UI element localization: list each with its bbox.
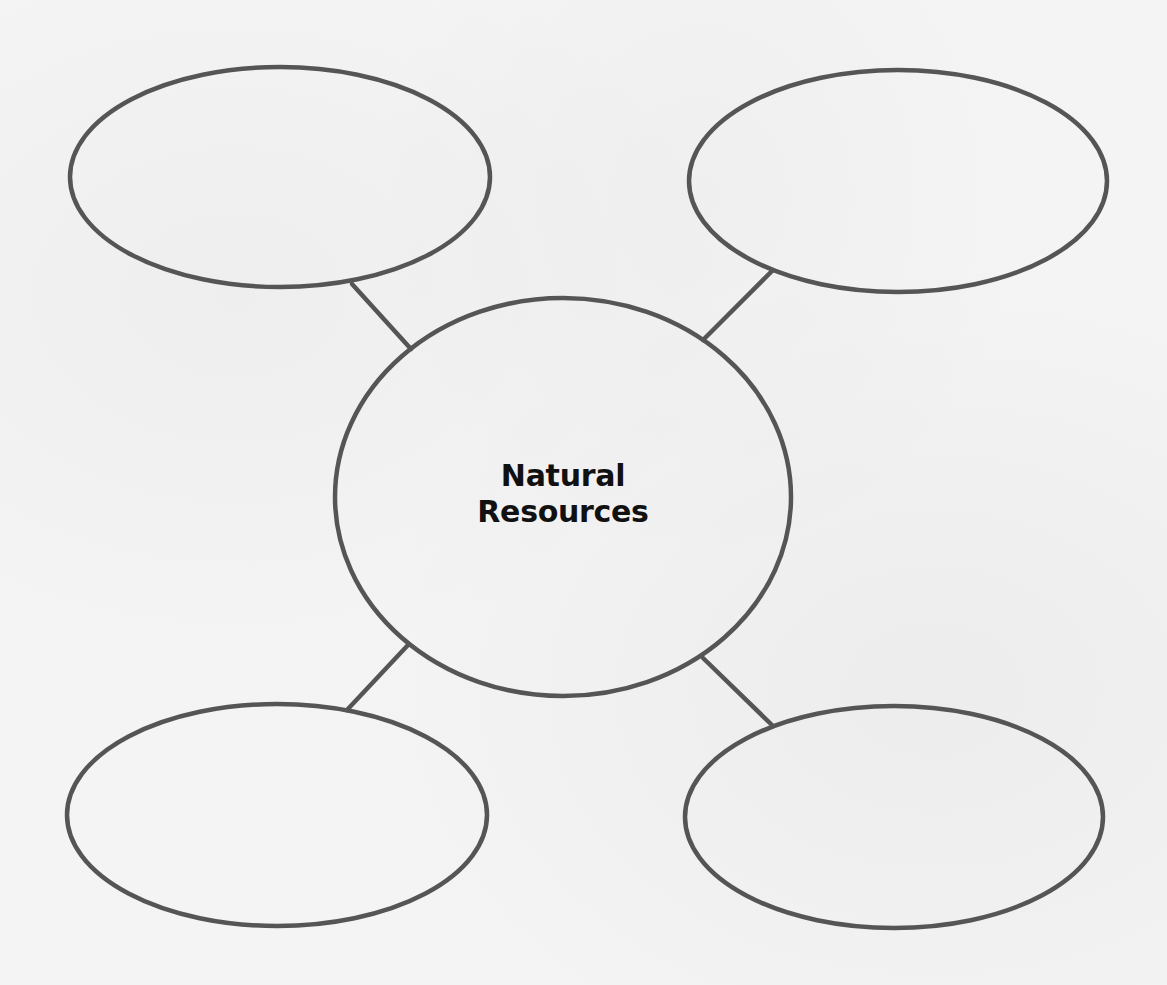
center-topic-line-2: Resources <box>413 494 713 530</box>
center-topic-line-1: Natural <box>413 458 713 494</box>
bubble-top-left-field[interactable] <box>90 87 470 267</box>
connector-bottom-left <box>347 645 408 710</box>
connector-bottom-right <box>703 658 773 726</box>
bubble-top-right-field[interactable] <box>709 90 1087 272</box>
bubble-bottom-left-field[interactable] <box>87 724 467 906</box>
worksheet-page: Natural Resources <box>0 0 1167 985</box>
connector-top-right <box>703 271 772 340</box>
center-topic-label: Natural Resources <box>413 458 713 530</box>
bubble-bottom-right-field[interactable] <box>705 726 1083 908</box>
connector-top-left <box>352 284 411 349</box>
